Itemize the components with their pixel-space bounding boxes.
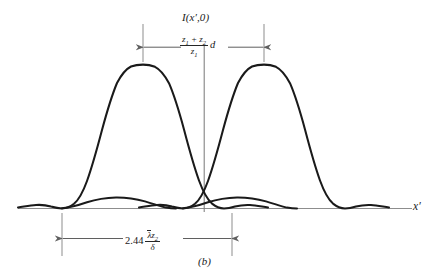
bottom-dimension-prefix: 2.44 (125, 236, 143, 247)
airy-pattern-right-curve (139, 65, 389, 209)
bottom-fraction-denominator: δ (149, 242, 157, 252)
airy-pattern-left-curve (18, 65, 268, 209)
top-fraction-numerator: z1 + z2 (180, 35, 208, 46)
bottom-dimension-fraction: λz2 δ (145, 231, 160, 252)
x-axis-label: x′ (413, 201, 421, 213)
intensity-axis-label: I(x′,0) (182, 12, 209, 23)
top-fraction-denominator: z1 (189, 46, 200, 56)
bottom-fraction-numerator: λz2 (145, 231, 160, 242)
top-dimension-suffix: d (210, 40, 215, 51)
diffraction-figure: I(x′,0) z1 + z2 z1 d 2.44 λz2 δ x′ (b) (0, 0, 429, 278)
top-dimension-fraction: z1 + z2 z1 (180, 35, 208, 56)
top-dimension-label: z1 + z2 z1 d (180, 35, 215, 56)
figure-caption: (b) (198, 256, 211, 267)
bottom-dimension-label: 2.44 λz2 δ (125, 231, 160, 252)
